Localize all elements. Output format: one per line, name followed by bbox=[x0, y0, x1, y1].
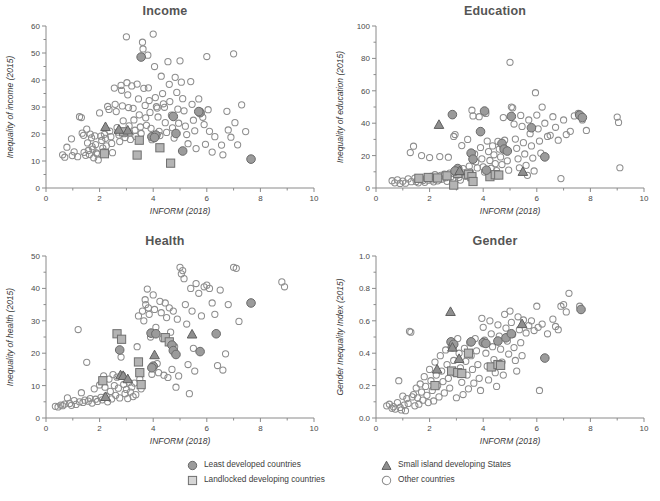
svg-text:0: 0 bbox=[44, 424, 49, 433]
svg-text:0.6: 0.6 bbox=[359, 317, 371, 326]
svg-text:10: 10 bbox=[310, 424, 319, 433]
svg-text:0: 0 bbox=[366, 184, 371, 193]
svg-text:6: 6 bbox=[535, 424, 540, 433]
series-open-circle bbox=[60, 31, 249, 163]
svg-text:6: 6 bbox=[535, 194, 540, 203]
legend-item-sids: Small island developing States bbox=[380, 458, 511, 471]
svg-text:10: 10 bbox=[31, 157, 40, 166]
plot-area-education: 0204060801000246810INFORM (2018)Inequali… bbox=[330, 4, 660, 230]
svg-text:40: 40 bbox=[31, 284, 40, 293]
svg-text:Inequality of education (2015): Inequality of education (2015) bbox=[335, 51, 345, 163]
svg-text:30: 30 bbox=[31, 103, 40, 112]
svg-text:0.0: 0.0 bbox=[359, 414, 371, 423]
svg-text:6: 6 bbox=[205, 424, 210, 433]
svg-text:0: 0 bbox=[44, 194, 49, 203]
svg-text:60: 60 bbox=[31, 22, 40, 31]
svg-text:10: 10 bbox=[640, 424, 649, 433]
svg-text:Inequality of income (2015): Inequality of income (2015) bbox=[5, 56, 15, 159]
plot-area-income: 01020304050600246810INFORM (2018)Inequal… bbox=[0, 4, 330, 230]
svg-text:INFORM (2018): INFORM (2018) bbox=[150, 436, 211, 446]
svg-text:4: 4 bbox=[481, 424, 486, 433]
svg-text:30: 30 bbox=[31, 317, 40, 326]
svg-text:10: 10 bbox=[310, 194, 319, 203]
svg-text:50: 50 bbox=[31, 252, 40, 261]
svg-text:40: 40 bbox=[361, 119, 370, 128]
plot-area-health: 010203040500246810INFORM (2018)Inequalit… bbox=[0, 234, 330, 460]
svg-text:0.2: 0.2 bbox=[359, 382, 371, 391]
svg-text:INFORM (2018): INFORM (2018) bbox=[150, 206, 211, 216]
series-open-circle bbox=[389, 59, 623, 186]
series-open-circle bbox=[384, 290, 583, 414]
panel-health: Health 010203040500246810INFORM (2018)In… bbox=[0, 234, 330, 460]
svg-text:1.0: 1.0 bbox=[359, 252, 371, 261]
svg-text:2: 2 bbox=[97, 424, 102, 433]
svg-text:0: 0 bbox=[374, 424, 379, 433]
legend-item-other: Other countries bbox=[380, 473, 511, 486]
svg-text:60: 60 bbox=[361, 87, 370, 96]
svg-text:0.8: 0.8 bbox=[359, 284, 371, 293]
panel-education: Education 0204060801000246810INFORM (201… bbox=[330, 4, 660, 230]
legend-label-ldc: Least developed countries bbox=[204, 458, 301, 471]
figure-legend: Least developed countries Landlocked dev… bbox=[0, 458, 660, 501]
svg-text:INFORM (2018): INFORM (2018) bbox=[480, 206, 541, 216]
series-square bbox=[431, 349, 505, 390]
svg-text:10: 10 bbox=[640, 194, 649, 203]
svg-text:20: 20 bbox=[31, 349, 40, 358]
svg-text:10: 10 bbox=[31, 382, 40, 391]
svg-text:4: 4 bbox=[151, 424, 156, 433]
svg-text:40: 40 bbox=[31, 76, 40, 85]
square-marker-icon bbox=[186, 473, 199, 486]
legend-label-other: Other countries bbox=[398, 473, 455, 486]
legend-item-lldc: Landlocked developing countries bbox=[186, 473, 325, 486]
svg-text:Inequality of health (2015): Inequality of health (2015) bbox=[5, 288, 15, 386]
svg-text:2: 2 bbox=[97, 194, 102, 203]
svg-text:Gender Inequality Index (2015): Gender Inequality Index (2015) bbox=[335, 278, 345, 395]
multi-panel-scatter-figure: Income 01020304050600246810INFORM (2018)… bbox=[0, 0, 660, 501]
svg-text:4: 4 bbox=[151, 194, 156, 203]
svg-text:4: 4 bbox=[481, 194, 486, 203]
svg-text:80: 80 bbox=[361, 54, 370, 63]
svg-text:INFORM (2018): INFORM (2018) bbox=[480, 436, 541, 446]
series-triangle bbox=[101, 122, 133, 134]
legend-item-ldc: Least developed countries bbox=[186, 458, 325, 471]
panel-income: Income 01020304050600246810INFORM (2018)… bbox=[0, 4, 330, 230]
triangle-marker-icon bbox=[380, 458, 393, 471]
svg-text:2: 2 bbox=[427, 424, 432, 433]
panel-gender: Gender 0.00.20.40.60.81.00246810INFORM (… bbox=[330, 234, 660, 460]
svg-text:0.4: 0.4 bbox=[359, 349, 371, 358]
svg-text:20: 20 bbox=[31, 130, 40, 139]
legend-label-lldc: Landlocked developing countries bbox=[204, 473, 325, 486]
svg-text:8: 8 bbox=[588, 194, 593, 203]
svg-text:2: 2 bbox=[427, 194, 432, 203]
svg-text:0: 0 bbox=[36, 414, 41, 423]
svg-text:6: 6 bbox=[205, 194, 210, 203]
legend-label-sids: Small island developing States bbox=[398, 458, 511, 471]
open-circle-marker-icon bbox=[380, 473, 393, 486]
svg-text:0: 0 bbox=[36, 184, 41, 193]
series-open-circle bbox=[52, 264, 287, 410]
filled-circle-marker-icon bbox=[186, 458, 199, 471]
svg-text:8: 8 bbox=[258, 424, 263, 433]
svg-text:100: 100 bbox=[357, 22, 371, 31]
plot-area-gender: 0.00.20.40.60.81.00246810INFORM (2018)Ge… bbox=[330, 234, 660, 460]
svg-text:50: 50 bbox=[31, 49, 40, 58]
svg-text:8: 8 bbox=[588, 424, 593, 433]
svg-text:8: 8 bbox=[258, 194, 263, 203]
svg-text:20: 20 bbox=[361, 152, 370, 161]
svg-text:0: 0 bbox=[374, 194, 379, 203]
